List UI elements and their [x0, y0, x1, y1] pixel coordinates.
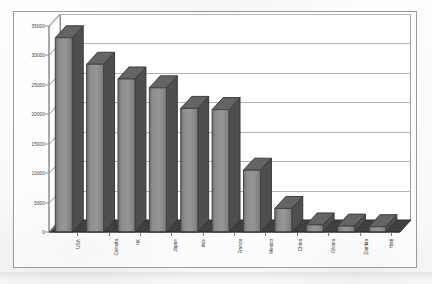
x-axis-tick: [265, 233, 266, 236]
x-axis-tick: [77, 233, 78, 236]
x-axis-tick: [328, 233, 329, 236]
x-axis-category-label: Haiti: [389, 239, 394, 248]
x-axis-tick: [234, 233, 235, 236]
x-axis-category-label: Zambia: [364, 239, 369, 255]
x-axis-category-label: Canada: [114, 239, 119, 255]
bar-china: [275, 196, 303, 232]
scan-artifact-band: [0, 272, 432, 279]
x-axis-tick: [109, 233, 110, 236]
bar-chart: 35000300002500020000150001000050000USACa…: [0, 0, 432, 284]
x-axis-category-label: France: [238, 239, 243, 254]
x-axis-category-label: Italy: [200, 239, 205, 248]
x-axis-category-label: Mexico: [269, 239, 274, 254]
bar-zambia: [338, 214, 366, 232]
bar-ghana: [306, 213, 334, 232]
x-axis-tick: [391, 233, 392, 236]
x-axis-category-label: Japan: [173, 239, 178, 252]
x-axis-tick: [360, 233, 361, 236]
bar-japan: [149, 76, 177, 232]
bar-usa: [55, 26, 83, 232]
x-axis-tick: [171, 233, 172, 236]
x-axis-category-label: China: [298, 239, 303, 251]
bar-hk: [118, 67, 146, 232]
x-axis-category-label: USA: [76, 239, 81, 249]
bar-mexico: [243, 158, 271, 232]
bar-haiti: [369, 215, 397, 232]
x-axis-tick: [203, 233, 204, 236]
x-axis-category-label: HK: [135, 239, 140, 246]
bar-canada: [87, 52, 115, 232]
bar-italy: [181, 96, 209, 232]
x-axis-category-label: Ghana: [331, 239, 336, 253]
x-axis-tick: [140, 233, 141, 236]
x-axis-tick: [297, 233, 298, 236]
bar-france: [212, 98, 240, 232]
